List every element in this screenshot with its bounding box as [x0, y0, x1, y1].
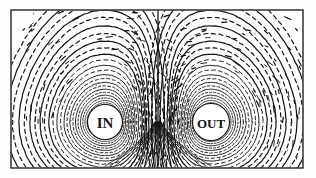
print-speckle — [33, 13, 34, 14]
figure-root: IN OUT — [0, 0, 316, 178]
print-speckle — [76, 134, 77, 135]
print-speckle — [255, 33, 256, 34]
print-speckle — [152, 140, 153, 141]
print-speckle — [170, 160, 171, 161]
print-speckle — [256, 95, 257, 96]
print-speckle — [280, 88, 282, 90]
print-speckle — [68, 145, 69, 146]
print-speckle — [84, 91, 85, 92]
print-speckle — [286, 60, 287, 61]
print-speckle — [30, 70, 31, 71]
equipotential-dash — [176, 107, 177, 111]
print-speckle — [75, 44, 76, 45]
print-speckle — [168, 112, 169, 113]
print-speckle — [31, 30, 33, 32]
print-speckle — [70, 120, 72, 122]
print-speckle — [111, 59, 112, 60]
print-speckle — [124, 133, 126, 135]
print-speckle — [158, 110, 159, 111]
conductor-left: IN — [88, 105, 123, 140]
print-speckle — [106, 157, 107, 158]
print-speckle — [134, 27, 136, 29]
print-speckle — [261, 58, 262, 59]
print-speckle — [54, 68, 55, 69]
print-speckle — [242, 109, 243, 110]
print-speckle — [66, 114, 67, 115]
print-speckle — [177, 87, 179, 89]
print-speckle — [96, 85, 98, 87]
print-speckle — [281, 151, 283, 153]
print-speckle — [77, 113, 78, 114]
equipotential-dash — [247, 30, 251, 31]
print-speckle — [291, 152, 292, 153]
print-speckle — [193, 47, 194, 48]
conductor-right: OUT — [193, 104, 230, 141]
print-speckle — [291, 83, 292, 84]
print-speckle — [219, 158, 221, 160]
print-speckle — [73, 81, 74, 82]
print-speckle — [299, 54, 300, 55]
print-speckle — [159, 82, 160, 83]
equipotential-dash — [98, 39, 102, 40]
print-speckle — [256, 129, 257, 130]
conductor-right-label: OUT — [197, 116, 226, 131]
print-speckle — [156, 129, 157, 130]
magnetic-field-diagram: IN OUT — [0, 0, 316, 178]
print-speckle — [154, 61, 156, 63]
equipotential-dash — [133, 42, 136, 43]
print-speckle — [57, 57, 58, 58]
print-speckle — [287, 150, 289, 152]
print-speckle — [147, 157, 148, 158]
print-speckle — [141, 134, 142, 135]
print-speckle — [18, 29, 19, 30]
print-speckle — [194, 104, 195, 105]
print-speckle — [159, 133, 160, 134]
conductor-left-label: IN — [97, 115, 114, 131]
equipotential-dash — [273, 106, 274, 112]
print-speckle — [186, 89, 188, 91]
equipotential-dash — [112, 49, 119, 50]
print-speckle — [274, 65, 275, 66]
print-speckle — [94, 69, 95, 70]
print-speckle — [262, 54, 263, 55]
print-speckle — [256, 72, 257, 73]
print-speckle — [85, 74, 86, 75]
print-speckle — [47, 27, 48, 28]
print-speckle — [280, 142, 281, 143]
equipotential-dash — [173, 114, 174, 120]
print-speckle — [31, 95, 32, 96]
print-speckle — [58, 104, 59, 105]
print-speckle — [266, 50, 267, 51]
print-speckle — [152, 62, 153, 63]
print-speckle — [88, 59, 89, 60]
equipotential-dash — [282, 117, 283, 122]
print-speckle — [138, 45, 139, 46]
